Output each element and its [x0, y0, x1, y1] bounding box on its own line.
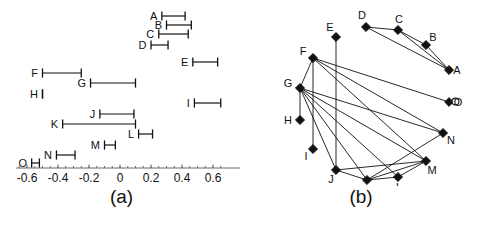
graph-edge-b-c	[398, 30, 426, 45]
node-label-f: F	[300, 45, 307, 57]
x-axis-tick-label: -0.6	[17, 171, 38, 185]
graph-node-f[interactable]: F	[300, 45, 318, 63]
interval-label: D	[139, 39, 147, 51]
x-axis-tick-label: 0	[117, 171, 124, 185]
interval-e: E	[181, 56, 218, 68]
graph-edge-j-k	[336, 170, 367, 180]
graph-node-i[interactable]: I	[304, 144, 317, 162]
interval-label: N	[44, 149, 52, 161]
interval-m: M	[91, 139, 116, 151]
graph-node-d[interactable]: D	[358, 9, 371, 32]
graph-edge-f-n	[313, 58, 443, 133]
interval-label: K	[51, 118, 59, 130]
node-marker-diamond	[331, 32, 340, 41]
node-marker-diamond	[361, 22, 370, 31]
graph-edge-a-c	[398, 30, 449, 70]
x-axis-tick-label: 0.6	[205, 171, 222, 185]
interval-label: B	[155, 19, 162, 31]
graph-node-b[interactable]: B	[421, 31, 436, 50]
interval-label: M	[91, 139, 100, 151]
node-label-j: J	[328, 173, 334, 185]
interval-o: O	[19, 157, 40, 169]
node-label-m: M	[427, 164, 436, 176]
node-label-i: I	[304, 150, 307, 162]
graph-edge-g-l	[300, 88, 398, 177]
node-marker-diamond	[295, 115, 304, 124]
x-axis-tick-label: -0.2	[79, 171, 100, 185]
node-label-d: D	[358, 9, 366, 21]
graph-node-h[interactable]: H	[284, 114, 305, 126]
interval-label: F	[31, 67, 38, 79]
graph-edge-f-o	[313, 58, 449, 102]
interval-plot-svg: -0.6-0.4-0.200.20.40.6ABCDEFGHIJKLMNO	[0, 0, 243, 186]
panel-b-caption: (b)	[243, 186, 479, 208]
graph-edge-g-m	[300, 88, 426, 161]
interval-l: L	[128, 128, 153, 140]
graph-node-j[interactable]: J	[328, 165, 340, 185]
graph-edge-g-n	[300, 88, 443, 133]
node-label-a: A	[453, 64, 461, 76]
x-axis-tick-label: -0.4	[48, 171, 69, 185]
graph-svg: ABCDEFGHIJKLMNO	[243, 0, 479, 186]
interval-h: H	[30, 88, 42, 100]
interval-n: N	[44, 149, 75, 161]
graph-edge-g-k	[300, 88, 367, 180]
graph-node-a[interactable]: A	[444, 64, 461, 76]
graph-node-c[interactable]: C	[393, 13, 403, 35]
node-label-h: H	[284, 114, 292, 126]
graph-node-n[interactable]: N	[438, 128, 455, 146]
node-label-e: E	[326, 21, 333, 33]
interval-label: H	[30, 88, 38, 100]
interval-f: F	[31, 67, 81, 79]
node-label-c: C	[395, 13, 403, 25]
x-axis-tick-label: 0.4	[174, 171, 191, 185]
interval-label: O	[19, 157, 28, 169]
interval-b: B	[155, 19, 192, 31]
node-marker-diamond	[393, 25, 402, 34]
interval-i: I	[187, 97, 221, 109]
node-marker-diamond	[308, 144, 317, 153]
interval-label: I	[187, 97, 190, 109]
interval-j: J	[90, 108, 134, 120]
graph-node-o[interactable]: O	[445, 96, 463, 108]
x-axis-tick-label: 0.2	[143, 171, 160, 185]
figure-root: -0.6-0.4-0.200.20.40.6ABCDEFGHIJKLMNO (a…	[0, 0, 479, 235]
interval-c: C	[146, 28, 188, 40]
node-label-g: G	[284, 77, 293, 89]
interval-g: G	[77, 77, 135, 89]
interval-label: J	[90, 108, 96, 120]
node-label-o: O	[454, 96, 463, 108]
graph-node-m[interactable]: M	[421, 156, 436, 176]
graph-node-g[interactable]: G	[284, 77, 305, 93]
interval-label: E	[181, 56, 188, 68]
interval-label: G	[77, 77, 86, 89]
interval-label: L	[128, 128, 134, 140]
panel-a-caption: (a)	[0, 186, 243, 208]
graph-node-e[interactable]: E	[326, 21, 340, 42]
node-label-b: B	[429, 31, 436, 43]
graph-edge-a-b	[426, 45, 449, 70]
graph-edge-f-g	[300, 58, 313, 88]
graph-node-k[interactable]: K	[362, 175, 371, 186]
interval-d: D	[139, 39, 169, 51]
interval-label: C	[146, 28, 154, 40]
node-label-n: N	[447, 134, 455, 146]
